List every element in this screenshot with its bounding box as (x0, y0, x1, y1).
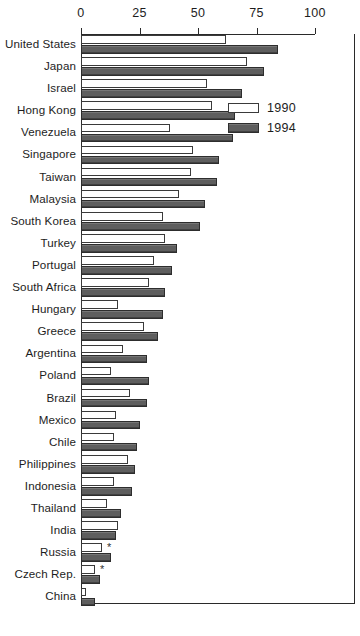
bar-row: Russia* (0, 542, 360, 564)
x-axis-tick-label: 50 (191, 6, 206, 20)
bar-row: Turkey (0, 233, 360, 255)
bar-row: Argentina (0, 343, 360, 365)
bar-1994 (81, 399, 147, 408)
bar-row: Japan (0, 56, 360, 78)
bar-1994 (81, 310, 163, 319)
category-label: Japan (0, 59, 76, 72)
bar-1994 (81, 531, 116, 540)
category-label: Portugal (0, 258, 76, 271)
x-axis-tick-label: 25 (132, 6, 147, 20)
bar-row: Chile (0, 432, 360, 454)
bar-1994 (81, 266, 172, 275)
category-label: Israel (0, 81, 76, 94)
bar-row: Indonesia (0, 476, 360, 498)
bar-1994 (81, 421, 140, 430)
bar-1990 (81, 433, 114, 442)
bar-1990 (81, 146, 193, 155)
bar-row: Poland (0, 365, 360, 387)
bar-1994 (81, 89, 242, 98)
bar-1990 (81, 455, 128, 464)
bar-row: Mexico (0, 410, 360, 432)
bar-row: Philippines (0, 454, 360, 476)
category-label: Taiwan (0, 170, 76, 183)
bar-1990 (81, 256, 154, 265)
bar-1990 (81, 565, 95, 574)
category-label: Czech Rep. (0, 567, 76, 580)
bar-1994 (81, 598, 95, 607)
bar-1994 (81, 111, 235, 120)
bar-1990 (81, 300, 118, 309)
bar-row: Hungary (0, 299, 360, 321)
category-label: Singapore (0, 147, 76, 160)
category-label: Turkey (0, 236, 76, 249)
bar-1990 (81, 345, 123, 354)
bar-1994 (81, 222, 200, 231)
bar-1990 (81, 543, 102, 552)
legend: 19901994 (228, 100, 328, 140)
legend-item: 1994 (228, 120, 328, 136)
bar-1990 (81, 477, 114, 486)
bar-1990 (81, 588, 86, 597)
bar-1994 (81, 134, 233, 143)
bar-row: China (0, 586, 360, 608)
category-label: Hong Kong (0, 103, 76, 116)
bar-1994 (81, 288, 165, 297)
bar-row: South Africa (0, 277, 360, 299)
bar-1990 (81, 101, 212, 110)
category-label: Philippines (0, 457, 76, 470)
bar-row: Israel (0, 78, 360, 100)
bar-row: South Korea (0, 211, 360, 233)
bar-1990 (81, 190, 179, 199)
asterisk-annotation: * (100, 563, 104, 575)
bar-1994 (81, 443, 137, 452)
category-label: Mexico (0, 413, 76, 426)
legend-label: 1990 (267, 101, 296, 115)
category-label: Thailand (0, 501, 76, 514)
legend-swatch-icon (228, 103, 259, 113)
x-axis-tick-label: 0 (77, 6, 84, 20)
bar-1990 (81, 521, 118, 530)
bar-1994 (81, 45, 278, 54)
category-label: Hungary (0, 302, 76, 315)
bar-1994 (81, 200, 205, 209)
category-label: South Korea (0, 214, 76, 227)
bar-row: Greece (0, 321, 360, 343)
category-label: Brazil (0, 391, 76, 404)
category-label: Argentina (0, 346, 76, 359)
bar-1994 (81, 178, 217, 187)
bar-1990 (81, 389, 130, 398)
bar-row: Portugal (0, 255, 360, 277)
bar-row: Taiwan (0, 167, 360, 189)
asterisk-annotation: * (107, 541, 111, 553)
bar-1994 (81, 487, 132, 496)
bar-1994 (81, 67, 264, 76)
bar-row: Singapore (0, 144, 360, 166)
bar-row: Brazil (0, 388, 360, 410)
category-label: Venezuela (0, 125, 76, 138)
category-label: United States (0, 37, 76, 50)
bar-1994 (81, 377, 149, 386)
category-label: Chile (0, 435, 76, 448)
bar-1990 (81, 278, 149, 287)
legend-item: 1990 (228, 100, 328, 116)
bar-1990 (81, 79, 207, 88)
category-label: Russia (0, 545, 76, 558)
bar-chart: 0255075100 United StatesJapanIsraelHong … (0, 0, 360, 636)
bar-1994 (81, 509, 121, 518)
category-label: Greece (0, 324, 76, 337)
category-label: Malaysia (0, 192, 76, 205)
bar-1994 (81, 244, 177, 253)
bar-1994 (81, 575, 100, 584)
bar-1990 (81, 367, 111, 376)
bar-row: Thailand (0, 498, 360, 520)
bar-1994 (81, 156, 219, 165)
bar-1994 (81, 355, 147, 364)
category-label: China (0, 589, 76, 602)
category-label: India (0, 523, 76, 536)
x-axis-tick-label: 75 (249, 6, 264, 20)
bar-1990 (81, 124, 170, 133)
bar-1994 (81, 465, 135, 474)
category-label: South Africa (0, 280, 76, 293)
category-label: Poland (0, 368, 76, 381)
x-axis-tick-label: 100 (304, 6, 326, 20)
